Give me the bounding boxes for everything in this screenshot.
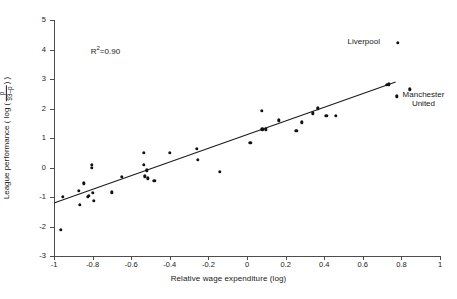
r-squared-annotation: R2=0.90	[91, 45, 120, 56]
y-axis-title-suffix: ) )	[2, 77, 11, 85]
annotation-manchester-line2: United	[403, 100, 445, 109]
regression-line	[0, 0, 457, 299]
r-squared-value: =0.90	[100, 46, 120, 55]
y-axis-title-fraction: p 93–p	[0, 85, 13, 101]
chart-figure: -3-2-1012345 -1-0.8-0.6-0.4-0.200.20.40.…	[0, 0, 457, 299]
x-axis-title: Relative wage expenditure (log)	[0, 274, 457, 283]
annotation-manchester-united: ManchesterUnited	[403, 91, 445, 109]
y-axis-title-prefix: League performance ( log (	[2, 103, 11, 200]
fraction-denominator: 93–p	[6, 85, 14, 101]
y-axis-title: League performance ( log ( p 93–p ) )	[0, 77, 13, 200]
annotation-liverpool: Liverpool	[348, 38, 380, 47]
